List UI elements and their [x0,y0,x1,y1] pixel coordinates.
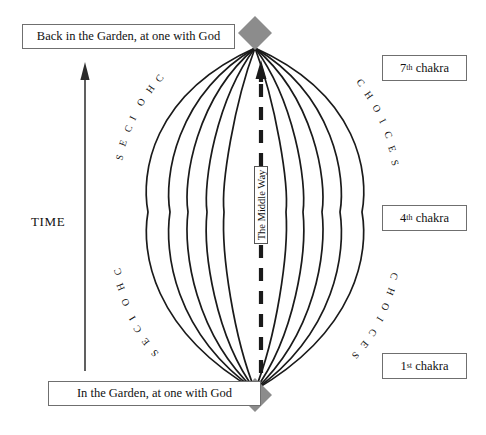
choices-label-lower-right: C H O I C E S [350,271,401,361]
label-back-in-the-garden: Back in the Garden, at one with God [22,24,235,49]
choices-letter: H [384,286,397,297]
choices-letter: C [131,323,144,335]
label-in-the-garden: In the Garden, at one with God [48,381,261,406]
choices-letter: C [153,72,166,84]
label-chakra-1: 1st chakra [382,353,467,379]
choices-label-lower-left: C H O I C E S [111,267,160,359]
label-chakra-7: 7th chakra [382,55,467,81]
choices-letter: E [359,339,371,351]
choices-letter: H [362,89,375,101]
choices-letter: C [366,327,379,339]
choices-letter: S [113,153,125,161]
label-time-axis: TIME [31,214,65,230]
choices-letter: C [122,123,135,134]
choices-letter: O [134,96,147,108]
top-diamond-icon [238,16,272,50]
choices-letter: I [127,314,138,323]
chakra-1-word: chakra [415,360,448,373]
time-arrowhead [80,62,89,80]
choices-letter: H [114,282,127,293]
choices-letter: O [370,102,383,114]
label-chakra-4: 4th chakra [382,205,467,231]
choices-letter: C [382,129,395,140]
label-back-in-the-garden-text: Back in the Garden, at one with God [37,30,220,43]
choices-letter: I [127,114,138,122]
choices-letter: E [386,144,398,154]
choices-letter: O [379,301,392,312]
choices-letter: C [388,271,401,281]
choice-curve-left-3 [187,48,255,390]
choices-letter: E [139,336,151,348]
choices-letter: S [149,348,161,360]
label-the-middle-way-text: The Middle Way [256,170,267,241]
choices-letter: O [119,297,132,308]
chakra-7-word: chakra [416,62,449,75]
choices-letter: C [354,76,367,88]
choices-label-upper-right: C H O I C E S [354,76,401,166]
chakra-4-word: chakra [416,212,449,225]
time-axis-arrow [80,62,89,371]
label-the-middle-way: The Middle Way [254,166,268,244]
diagram-canvas: C H O I C E S C H O I C E S C H O I C E … [0,0,486,435]
choices-letter: C [111,267,124,277]
chakra-1-number: 1 [400,360,406,373]
choices-letter: S [389,159,401,167]
choices-letter: I [375,315,386,324]
choices-letter: I [377,117,388,125]
choices-letter: H [144,83,157,95]
choices-letter: S [350,350,362,362]
choices-label-upper-left: C H O I C E S [113,72,166,162]
choices-letter: E [117,138,129,148]
label-in-the-garden-text: In the Garden, at one with God [77,387,232,400]
